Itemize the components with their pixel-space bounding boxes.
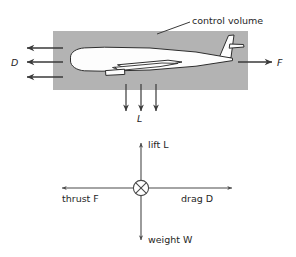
circle-x-marker	[133, 180, 148, 195]
lift-arrow-label: L	[137, 113, 142, 124]
airplane-horizontal-stabilizer	[229, 44, 244, 48]
fbd-thrust-label: thrust F	[62, 193, 99, 204]
force-diagram-figure: control volume	[0, 0, 296, 257]
drag-arrow-label: D	[11, 57, 18, 68]
airplane-engine-nacelle	[106, 69, 125, 75]
control-volume-label: control volume	[192, 15, 263, 26]
fbd-lift-label: lift L	[148, 139, 169, 150]
fbd-weight-label: weight W	[148, 234, 193, 245]
control-volume-panel: control volume	[11, 15, 283, 124]
diagram-canvas: control volume	[0, 0, 296, 257]
fbd-drag-label: drag D	[181, 193, 213, 204]
free-body-panel: lift L weight W thrust F drag D	[62, 139, 232, 245]
thrust-arrow-label: F	[277, 57, 283, 68]
